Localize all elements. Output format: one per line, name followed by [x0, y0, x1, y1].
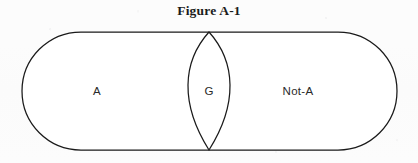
figure-page: Figure A-1 A G Not-A: [0, 0, 418, 163]
region-label-not-a: Not-A: [283, 85, 314, 97]
region-label-a: A: [93, 85, 101, 97]
region-label-g: G: [204, 85, 213, 97]
venn-diagram: A G Not-A: [0, 0, 418, 163]
